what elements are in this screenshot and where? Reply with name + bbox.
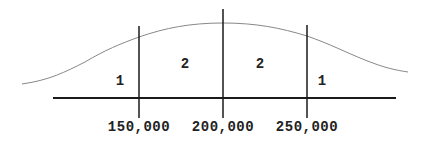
bell-curve [22, 23, 408, 84]
region-label: 1 [116, 73, 124, 89]
tick-label-250000: 250,000 [276, 119, 338, 135]
region-label: 2 [256, 56, 264, 72]
tick-label-150000: 150,000 [108, 119, 170, 135]
region-label: 1 [318, 73, 326, 89]
diagram-canvas: 1 2 2 1 150,000 200,000 250,000 [0, 0, 426, 144]
tick-label-200000: 200,000 [192, 119, 254, 135]
distribution-diagram: 1 2 2 1 150,000 200,000 250,000 [0, 0, 426, 144]
region-label: 2 [181, 56, 189, 72]
